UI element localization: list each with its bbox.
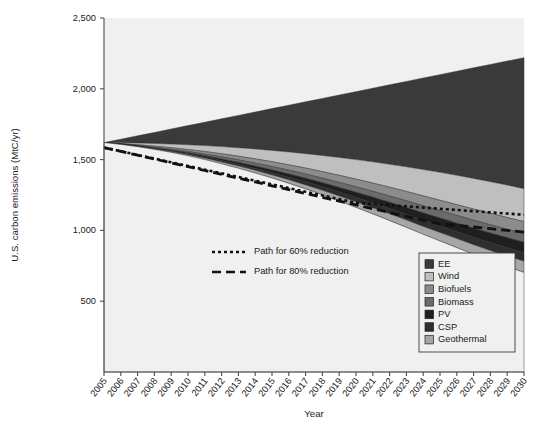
chart-canvas: 5001,0001,5002,0002,500 2005200620072008…: [0, 0, 554, 426]
path-legend-label: Path for 60% reduction: [254, 246, 349, 256]
y-tick-label: 500: [80, 296, 96, 306]
y-tick-label: 2,000: [73, 84, 96, 94]
y-tick-label: 2,500: [73, 13, 96, 23]
legend-label-ee[interactable]: EE: [438, 259, 450, 269]
legend-swatch-ee[interactable]: [425, 260, 434, 269]
y-tick-label: 1,000: [73, 225, 96, 235]
legend-label-biofuels[interactable]: Biofuels: [438, 284, 471, 294]
legend-label-pv[interactable]: PV: [438, 309, 451, 319]
legend-swatch-biofuels[interactable]: [425, 285, 434, 294]
x-axis-title: Year: [304, 408, 324, 419]
legend-label-csp[interactable]: CSP: [438, 322, 457, 332]
series-legend[interactable]: EEWindBiofuelsBiomassPVCSPGeothermal: [419, 253, 515, 352]
legend-label-biomass[interactable]: Biomass: [438, 297, 474, 307]
legend-swatch-geothermal[interactable]: [425, 335, 434, 344]
path-legend-label: Path for 80% reduction: [254, 266, 349, 276]
legend-swatch-biomass[interactable]: [425, 298, 434, 307]
y-axis-title: U.S. carbon emissions (MtC/yr): [9, 128, 20, 261]
legend-swatch-wind[interactable]: [425, 272, 434, 281]
legend-swatch-pv[interactable]: [425, 310, 434, 319]
legend-label-wind[interactable]: Wind: [438, 271, 459, 281]
legend-label-geothermal[interactable]: Geothermal: [438, 334, 487, 344]
y-tick-label: 1,500: [73, 155, 96, 165]
emissions-wedge-chart: 5001,0001,5002,0002,500 2005200620072008…: [0, 0, 554, 426]
legend-swatch-csp[interactable]: [425, 323, 434, 332]
